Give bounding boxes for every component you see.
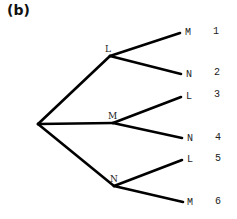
outcome-number: 4 bbox=[215, 133, 221, 143]
leaf-label: M bbox=[187, 198, 193, 208]
branch-edge-N bbox=[38, 124, 114, 186]
outcome-number: 2 bbox=[214, 68, 220, 78]
leaf-edge-N-M bbox=[114, 186, 183, 202]
outcome-number: 6 bbox=[215, 197, 221, 207]
node-label-M: M bbox=[108, 111, 117, 121]
leaf-edge-L-M bbox=[110, 33, 180, 56]
node-label-L: L bbox=[105, 44, 111, 54]
outcome-number: 1 bbox=[213, 27, 219, 37]
tree-diagram bbox=[0, 0, 237, 219]
leaf-label: L bbox=[187, 155, 193, 165]
leaf-label: N bbox=[186, 70, 192, 80]
leaf-edge-M-N bbox=[113, 123, 182, 138]
leaf-label: L bbox=[186, 92, 192, 102]
branch-edge-M bbox=[38, 123, 113, 124]
outcome-number: 3 bbox=[214, 90, 220, 100]
node-label-N: N bbox=[110, 174, 118, 184]
leaf-label: N bbox=[187, 134, 193, 144]
leaf-label: M bbox=[185, 28, 191, 38]
branch-edge-L bbox=[38, 56, 110, 124]
leaf-edge-L-N bbox=[110, 56, 181, 74]
outcome-number: 5 bbox=[215, 154, 221, 164]
leaf-edge-N-L bbox=[114, 160, 182, 186]
leaf-edge-M-L bbox=[113, 97, 181, 123]
